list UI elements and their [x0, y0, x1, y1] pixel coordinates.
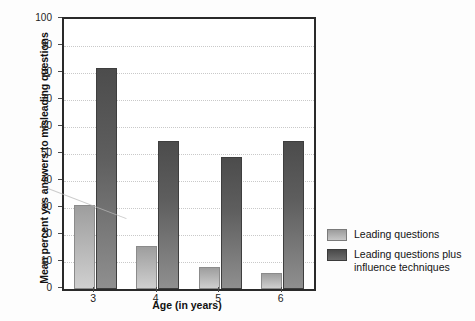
bar-leading-questions-age-3: [74, 205, 95, 289]
bar-leading-questions-plus-influence-techniques-age-4: [158, 141, 179, 290]
y-axis-tick-labels: 0102030405060708090100: [14, 17, 58, 287]
plot-inner: [64, 19, 314, 289]
legend-swatch-dark: [327, 249, 347, 261]
x-axis-tick-label: 4: [136, 292, 176, 304]
legend-item: Leading questions plus influence techniq…: [327, 248, 473, 273]
plot-area: [62, 17, 316, 291]
y-axis-tick-label: 30: [12, 201, 52, 212]
x-axis-tick-label: 3: [73, 292, 113, 304]
y-axis-tick-mark: [58, 233, 62, 234]
legend-swatch-light: [327, 229, 347, 241]
bar-leading-questions-age-6: [261, 273, 282, 289]
y-axis-tick-mark: [58, 71, 62, 72]
y-axis-tick-mark: [58, 287, 62, 288]
y-axis-tick-mark: [58, 44, 62, 45]
y-axis-tick-label: 90: [12, 39, 52, 50]
gridline: [64, 46, 314, 47]
chart-legend: Leading questions Leading questions plus…: [327, 228, 473, 280]
x-axis-tick-label: 5: [198, 292, 238, 304]
y-axis-tick-label: 70: [12, 93, 52, 104]
y-axis-tick-mark: [58, 98, 62, 99]
y-axis-tick-mark: [58, 152, 62, 153]
bar-leading-questions-plus-influence-techniques-age-3: [96, 68, 117, 289]
y-axis-tick-mark: [58, 125, 62, 126]
y-axis-tick-label: 60: [12, 120, 52, 131]
y-axis-tick-mark: [58, 179, 62, 180]
y-axis-tick-mark: [58, 206, 62, 207]
y-axis-tick-label: 100: [12, 12, 52, 23]
y-axis-tick-label: 50: [12, 147, 52, 158]
chart-figure: Mean percent yes answers to misleading q…: [0, 0, 475, 321]
bar-leading-questions-age-5: [199, 267, 220, 289]
y-axis-tick-label: 0: [12, 282, 52, 293]
legend-item: Leading questions: [327, 228, 473, 241]
y-axis-tick-label: 20: [12, 228, 52, 239]
legend-label: Leading questions plus influence techniq…: [354, 248, 473, 273]
bar-leading-questions-age-4: [136, 246, 157, 289]
bar-leading-questions-plus-influence-techniques-age-5: [221, 157, 242, 289]
y-axis-tick-label: 80: [12, 66, 52, 77]
legend-label: Leading questions: [354, 228, 439, 241]
y-axis-tick-mark: [58, 17, 62, 18]
y-axis-tick-mark: [58, 260, 62, 261]
y-axis-tick-label: 10: [12, 255, 52, 266]
y-axis-tick-label: 40: [12, 174, 52, 185]
x-axis-tick-label: 6: [261, 292, 301, 304]
bar-leading-questions-plus-influence-techniques-age-6: [283, 141, 304, 290]
